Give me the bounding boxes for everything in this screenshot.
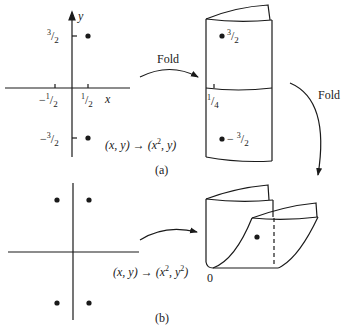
cylinder-top-point-label: 3/2 — [227, 29, 239, 45]
plane-b-axes — [8, 183, 139, 320]
origin-label: 0 — [207, 272, 213, 284]
tick-x-neg-1-2: −1/2 — [39, 93, 58, 109]
plane-a-axes — [5, 12, 130, 157]
fold-label-down: Fold — [318, 89, 340, 101]
tick-y-neg-3-2: −3/2 — [40, 132, 59, 148]
fold-label-a: Fold — [157, 53, 179, 65]
caption-b: (b) — [155, 312, 169, 324]
y-axis-label: y — [78, 10, 83, 22]
orbifold-folding-diagram: y x 3/2 −3/2 −1/2 1/2 Fold 3/2 1/4 − 3/2… — [0, 0, 348, 331]
map-label-b: (x, y) → (x2, y2) — [113, 265, 188, 278]
tick-y-3-2: 3/2 — [47, 29, 59, 45]
folded-shape-b — [206, 185, 318, 268]
map-label-a: (x, y) → (x2, y) — [105, 138, 176, 151]
caption-a: (a) — [155, 164, 168, 176]
tick-x-1-2: 1/2 — [81, 93, 93, 109]
x-axis-label: x — [105, 93, 110, 105]
cylinder-seam-label: 1/4 — [207, 94, 219, 110]
cylinder-bottom-point-label: − 3/2 — [227, 132, 249, 148]
diagram-drawing — [0, 0, 348, 331]
